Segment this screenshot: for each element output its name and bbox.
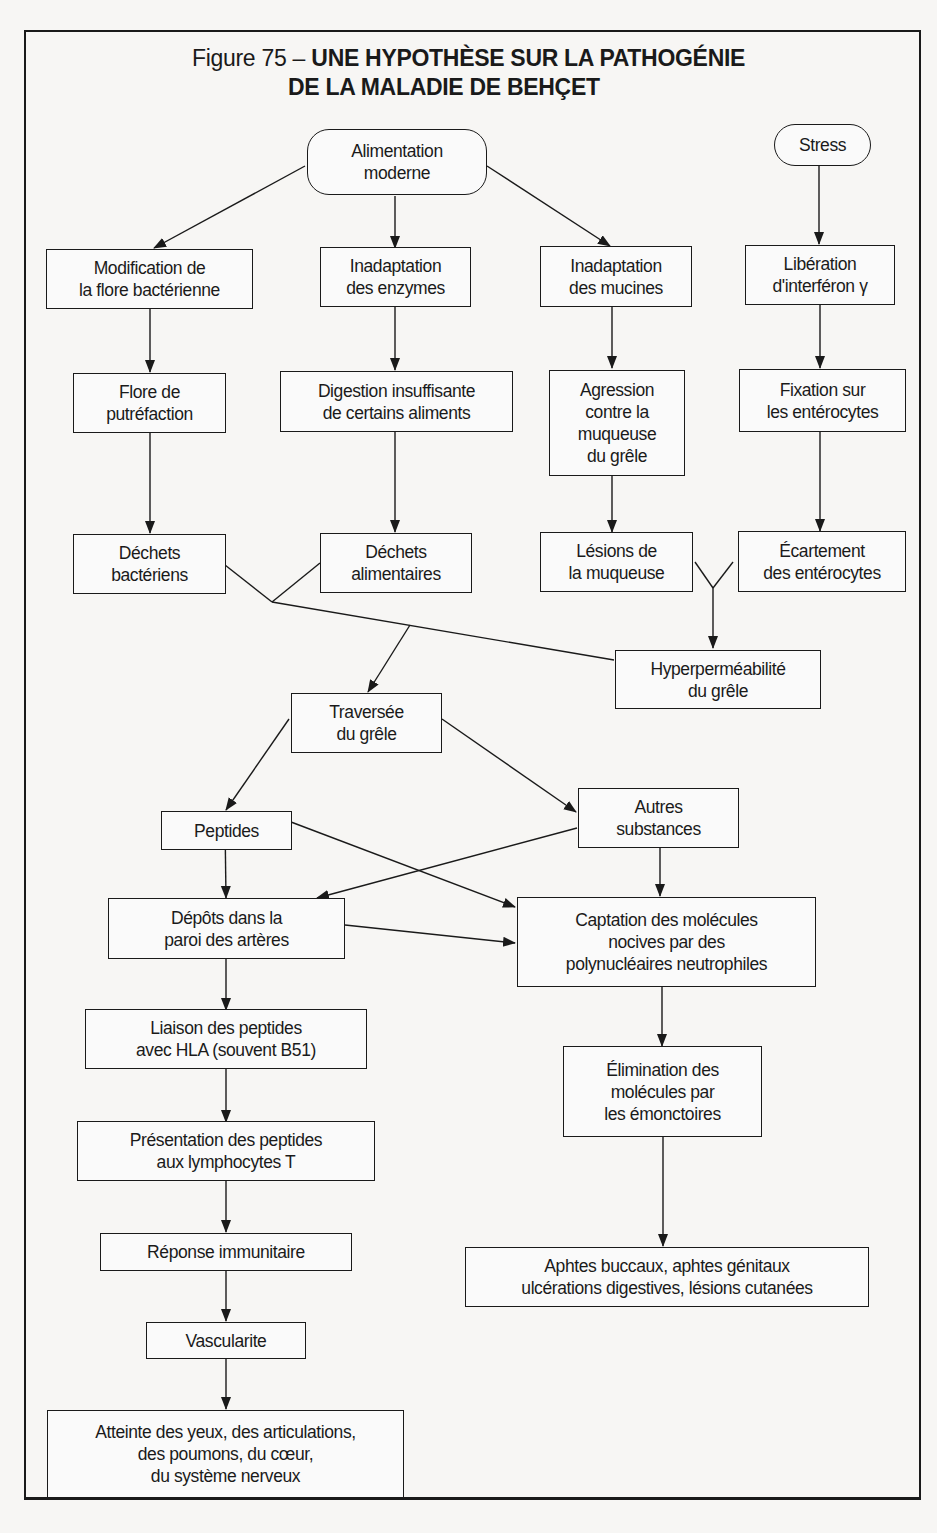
node-fixation-enterocytes: Fixation sur les entérocytes (739, 369, 906, 432)
node-reponse-immunitaire: Réponse immunitaire (100, 1233, 352, 1271)
node-label: Vascularite (186, 1330, 267, 1352)
node-label: Captation des molécules nocives par des … (566, 909, 767, 975)
node-label: Aphtes buccaux, aphtes génitaux ulcérati… (521, 1255, 812, 1299)
node-label: Modification de la flore bactérienne (79, 257, 220, 301)
node-label: Écartement des entérocytes (763, 540, 881, 584)
node-elimination-molecules: Élimination des molécules par les émonct… (563, 1046, 762, 1137)
node-autres-substances: Autres substances (578, 788, 739, 848)
node-label: Stress (799, 134, 846, 156)
node-liberation-interferon: Libération d'interféron γ (745, 245, 895, 305)
node-digestion-insuffisante: Digestion insuffisante de certains alime… (280, 371, 513, 432)
node-flore-putrefaction: Flore de putréfaction (73, 373, 226, 433)
node-vascularite: Vascularite (146, 1322, 306, 1359)
node-label: Inadaptation des enzymes (346, 255, 445, 299)
node-label: Inadaptation des mucines (569, 255, 663, 299)
node-dechets-bacteriens: Déchets bactériens (73, 534, 226, 594)
arrow-alim-flore (154, 166, 305, 248)
node-label: Flore de putréfaction (106, 381, 193, 425)
node-label: Présentation des peptides aux lymphocyte… (130, 1129, 322, 1173)
arrow-alim-mucines (487, 166, 610, 246)
node-peptides: Peptides (161, 811, 292, 850)
node-label: Hyperperméabilité du grêle (650, 658, 785, 702)
node-atteinte-organes: Atteinte des yeux, des articulations, de… (47, 1410, 404, 1498)
node-presentation-peptides: Présentation des peptides aux lymphocyte… (77, 1121, 375, 1181)
node-label: Digestion insuffisante de certains alime… (318, 380, 475, 424)
node-alimentation-moderne: Alimentation moderne (307, 129, 487, 195)
node-label: Peptides (194, 820, 259, 842)
node-lesions-muqueuse: Lésions de la muqueuse (540, 532, 693, 592)
node-inadaptation-mucines: Inadaptation des mucines (540, 246, 692, 307)
node-label: Élimination des molécules par les émonct… (604, 1059, 721, 1125)
node-liaison-peptides-hla: Liaison des peptides avec HLA (souvent B… (85, 1009, 367, 1069)
node-dechets-alimentaires: Déchets alimentaires (320, 533, 472, 593)
node-label: Lésions de la muqueuse (569, 540, 665, 584)
node-label: Réponse immunitaire (147, 1241, 305, 1263)
node-label: Liaison des peptides avec HLA (souvent B… (136, 1017, 316, 1061)
node-aphtes-ulcerations: Aphtes buccaux, aphtes génitaux ulcérati… (465, 1247, 869, 1307)
node-inadaptation-enzymes: Inadaptation des enzymes (320, 247, 471, 307)
node-modification-flore: Modification de la flore bactérienne (46, 249, 253, 309)
node-depots-arteres: Dépôts dans la paroi des artères (108, 898, 345, 959)
node-label: Alimentation moderne (351, 140, 443, 184)
node-agression-muqueuse: Agression contre la muqueuse du grêle (549, 370, 685, 476)
node-label: Déchets bactériens (111, 542, 188, 586)
node-label: Atteinte des yeux, des articulations, de… (95, 1421, 356, 1487)
arrow-to-traversee (368, 625, 410, 692)
node-label: Dépôts dans la paroi des artères (164, 907, 289, 951)
node-ecartement-enterocytes: Écartement des entérocytes (738, 531, 906, 592)
node-label: Libération d'interféron γ (772, 253, 867, 297)
node-traversee-grele: Traversée du grêle (291, 693, 442, 753)
node-label: Fixation sur les entérocytes (767, 379, 879, 423)
node-stress: Stress (774, 124, 871, 166)
node-label: Agression contre la muqueuse du grêle (578, 379, 657, 467)
node-hyperpermeabilite: Hyperperméabilité du grêle (615, 650, 821, 709)
node-label: Autres substances (616, 796, 701, 840)
node-captation-molecules: Captation des molécules nocives par des … (517, 897, 816, 987)
node-label: Traversée du grêle (329, 701, 404, 745)
node-label: Déchets alimentaires (351, 541, 441, 585)
